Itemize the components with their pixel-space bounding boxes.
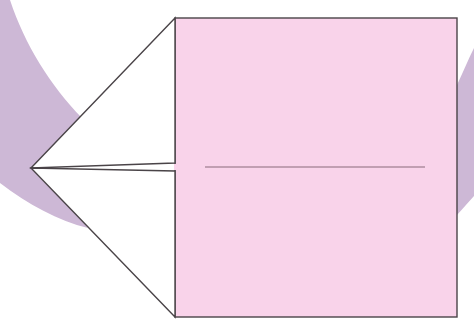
flap-bottom-triangle xyxy=(31,168,175,317)
origami-diagram xyxy=(0,0,474,331)
flap-notch-gap xyxy=(174,164,177,170)
rotation-arrow-right-band xyxy=(457,48,474,215)
